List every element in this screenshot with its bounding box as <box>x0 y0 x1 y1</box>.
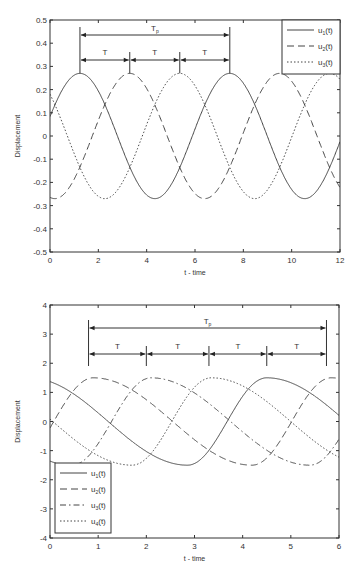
t-label: T <box>202 48 207 57</box>
chart-figure: 024681012-0.5-0.4-0.3-0.2-0.100.10.20.30… <box>0 0 361 582</box>
x-tick-label: 2 <box>96 256 101 265</box>
x-tick-label: 5 <box>289 542 294 551</box>
t-label: T <box>175 342 180 351</box>
y-tick-label: 0.4 <box>36 39 48 48</box>
series-line-3 <box>50 73 340 198</box>
x-axis-label: t - time <box>184 269 205 276</box>
y-tick-label: -0.5 <box>33 248 47 257</box>
series-line-2 <box>50 73 340 198</box>
y-tick-label: -0.4 <box>33 225 47 234</box>
x-tick-label: 4 <box>144 256 149 265</box>
x-tick-label: 8 <box>241 256 246 265</box>
y-tick-label: -1 <box>40 447 48 456</box>
x-tick-label: 6 <box>337 542 342 551</box>
y-tick-label: 0 <box>43 132 48 141</box>
chart-1: 024681012-0.5-0.4-0.3-0.2-0.100.10.20.30… <box>14 16 345 276</box>
y-tick-label: -2 <box>40 476 48 485</box>
y-tick-label: 4 <box>43 301 48 310</box>
y-tick-label: -4 <box>40 534 48 543</box>
x-tick-label: 1 <box>96 542 101 551</box>
t-label: T <box>235 342 240 351</box>
period-annotations: TpTTTT <box>89 317 327 366</box>
legend-label: u3(t) <box>318 58 333 68</box>
y-tick-label: -0.1 <box>33 155 47 164</box>
y-tick-label: 2 <box>43 359 48 368</box>
tp-label: Tp <box>151 24 159 34</box>
x-tick-label: 3 <box>192 542 197 551</box>
series-line-3 <box>50 378 339 465</box>
chart-2: 0123456-4-3-2-101234t - timeDisplacement… <box>14 301 342 562</box>
legend-label: u1(t) <box>91 469 106 479</box>
tp-label: Tp <box>204 317 212 327</box>
series-line-1 <box>50 378 339 465</box>
legend-label: u2(t) <box>318 42 333 52</box>
y-axis-label: Displacement <box>14 115 22 157</box>
x-tick-label: 2 <box>144 542 149 551</box>
x-tick-label: 0 <box>48 256 53 265</box>
y-tick-label: 1 <box>43 388 48 397</box>
legend-label: u1(t) <box>318 26 333 36</box>
y-tick-label: -0.2 <box>33 178 47 187</box>
t-label: T <box>294 342 299 351</box>
series-line-4 <box>50 378 339 465</box>
t-label: T <box>102 48 107 57</box>
y-tick-label: 0.2 <box>36 86 48 95</box>
y-tick-label: -3 <box>40 505 48 514</box>
x-tick-label: 4 <box>240 542 245 551</box>
y-tick-label: 0.1 <box>36 109 48 118</box>
series-line-1 <box>50 73 340 198</box>
legend: u1(t)u2(t)u3(t)u4(t) <box>55 463 111 533</box>
legend-label: u3(t) <box>91 501 106 511</box>
y-tick-label: 0.3 <box>36 62 48 71</box>
y-tick-label: 0 <box>43 418 48 427</box>
period-annotations: TpTTT <box>80 24 230 73</box>
x-tick-label: 6 <box>193 256 198 265</box>
y-axis-label: Displacement <box>14 400 22 442</box>
x-tick-label: 0 <box>48 542 53 551</box>
series-line-2 <box>50 378 339 465</box>
x-tick-label: 12 <box>336 256 345 265</box>
t-label: T <box>152 48 157 57</box>
y-tick-label: -0.3 <box>33 202 47 211</box>
y-tick-label: 0.5 <box>36 16 48 25</box>
legend-label: u2(t) <box>91 485 106 495</box>
x-axis-label: t - time <box>184 555 205 562</box>
y-tick-label: 3 <box>43 330 48 339</box>
legend-label: u4(t) <box>91 517 106 527</box>
x-tick-label: 10 <box>287 256 296 265</box>
t-label: T <box>115 342 120 351</box>
legend: u1(t)u2(t)u3(t) <box>282 20 340 74</box>
